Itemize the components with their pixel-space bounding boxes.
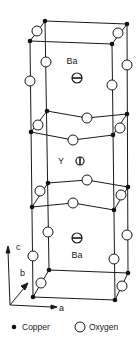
b-axis [10,287,25,305]
a-arrow-icon [51,305,57,309]
copper-icon [125,22,130,27]
legend-copper-label: Copper [22,322,50,332]
copper-legend-icon [12,325,17,330]
oxygen-icon [25,76,35,86]
ba-upper-label: Ba [66,56,77,66]
oxygen-icon [115,123,125,133]
y-label: Y [58,156,64,166]
oxygen-icon [41,57,51,67]
oxygen-icon [82,175,92,185]
copper-icon [111,133,116,138]
copper-icon [125,112,130,117]
oxygen-icon [107,80,117,90]
oxygen-icon [68,135,78,145]
copper-icon [43,19,48,24]
c-axis [8,251,10,305]
copper-icon [126,185,131,190]
ba-lower-label: Ba [71,250,82,260]
copper-icon [126,271,131,276]
oxygen-icon [122,60,132,70]
copper-icon [31,295,36,300]
axis-c-label: c [16,242,21,252]
top-face [30,21,127,44]
axis-b-label: b [20,268,25,278]
oxygen-icon [36,278,46,288]
oxygen-icon [116,190,126,200]
bottom-face [33,270,128,300]
c-arrow-icon [6,246,10,253]
oxygen-icon [122,230,132,240]
copper-icon [29,130,34,135]
barium-upper-icon [72,73,82,83]
oxygen-legend-icon [75,322,85,332]
oxygen-icon [117,281,127,291]
oxygen-icon [35,186,45,196]
legend: Copper Oxygen [12,322,119,332]
oxygen-icon [43,227,53,237]
copper-icon [30,205,35,210]
b-arrow-icon [21,283,28,290]
oxygen-icon [109,254,119,264]
barium-lower-icon [72,233,82,243]
copper-icon [112,208,117,213]
oxygen-icon [32,26,42,36]
legend-oxygen-label: Oxygen [89,322,119,332]
crystal-structure-diagram: Ba Y Ba c b a Copper Oxygen [0,0,137,339]
oxygen-icon [113,28,123,38]
oxygen-icon [68,198,78,208]
copper-icon [110,42,115,47]
copper-icon [113,298,118,303]
yttrium-icon [76,157,84,165]
oxygen-icon [33,120,43,130]
copper-icon [46,181,51,186]
oxygen-icon [82,113,92,123]
a-axis [10,305,52,307]
oxygen-icon [28,251,38,261]
copper-icon [28,39,33,44]
copper-icon [47,268,52,273]
copper-icon [45,109,50,114]
axis-a-label: a [59,303,64,313]
